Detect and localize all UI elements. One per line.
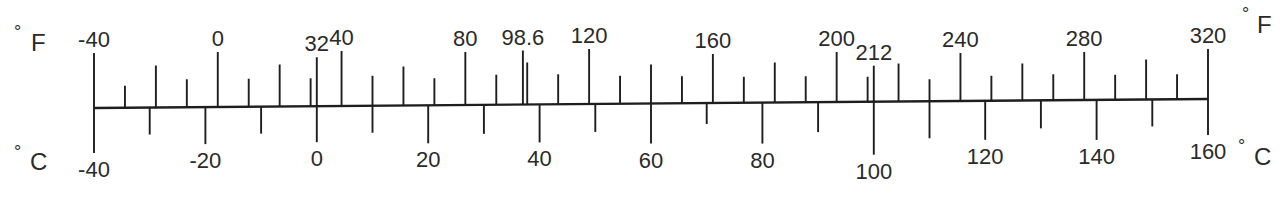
celsius-label: 120 xyxy=(967,144,1004,169)
celsius-tick-labels: -40-20020406080100120140160 xyxy=(78,139,1226,184)
celsius-label: 80 xyxy=(750,148,774,173)
fahrenheit-label: 80 xyxy=(453,26,477,51)
fahrenheit-label: 98.6 xyxy=(501,25,544,50)
celsius-label: 140 xyxy=(1078,144,1115,169)
fahrenheit-label: 160 xyxy=(695,28,732,53)
celsius-label: 60 xyxy=(639,148,663,173)
fahrenheit-label: 200 xyxy=(818,26,855,51)
fahrenheit-label: 120 xyxy=(571,23,608,48)
celsius-ticks xyxy=(94,99,1208,155)
unit-letter-f: F xyxy=(31,29,46,56)
celsius-label: -40 xyxy=(78,157,110,182)
celsius-label: 20 xyxy=(416,147,440,172)
temperature-scale-diagram: ° F ° C ° F ° C -40032408098.61201602002… xyxy=(0,0,1283,215)
fahrenheit-tick-labels: -40032408098.6120160200212240280320 xyxy=(78,23,1226,65)
celsius-label: 160 xyxy=(1190,139,1227,164)
fahrenheit-unit-label-right: ° F xyxy=(1242,4,1272,38)
celsius-label: 40 xyxy=(527,146,551,171)
fahrenheit-label: 0 xyxy=(212,26,224,51)
unit-letter-c: C xyxy=(1254,143,1271,170)
fahrenheit-label: 212 xyxy=(855,40,892,65)
fahrenheit-label: 320 xyxy=(1190,23,1227,48)
degree-symbol: ° xyxy=(1238,136,1245,156)
celsius-label: 100 xyxy=(855,159,892,184)
fahrenheit-label: 32 xyxy=(305,31,329,56)
degree-symbol: ° xyxy=(14,142,21,162)
unit-letter-c: C xyxy=(30,148,47,175)
celsius-unit-label-left: ° C xyxy=(14,142,47,175)
fahrenheit-label: 280 xyxy=(1066,26,1103,51)
degree-symbol: ° xyxy=(1242,4,1249,24)
fahrenheit-label: 40 xyxy=(329,25,353,50)
unit-letter-f: F xyxy=(1257,11,1272,38)
degree-symbol: ° xyxy=(14,22,21,42)
celsius-unit-label-right: ° C xyxy=(1238,136,1271,170)
celsius-label: -20 xyxy=(190,148,222,173)
fahrenheit-label: -40 xyxy=(78,27,110,52)
fahrenheit-unit-label-left: ° F xyxy=(14,22,46,56)
fahrenheit-label: 240 xyxy=(942,27,979,52)
celsius-label: 0 xyxy=(311,146,323,171)
